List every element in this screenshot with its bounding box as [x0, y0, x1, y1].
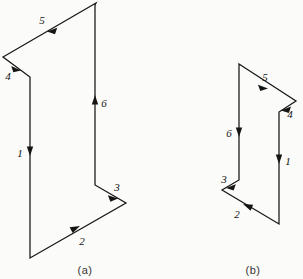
panel-a-segment-6: 6	[92, 95, 107, 109]
segment-label-5: 5	[262, 71, 268, 83]
panel-b-outline	[222, 64, 296, 224]
segment-label-2: 2	[234, 208, 240, 220]
polygon-figure-svg: 1 2 3 4 5	[0, 0, 303, 279]
segment-label-1: 1	[285, 155, 291, 167]
panel-b-caption: (b)	[245, 264, 260, 276]
segment-label-5: 5	[39, 14, 45, 26]
segment-label-2: 2	[79, 235, 85, 247]
panel-b-segment-2: 2	[234, 204, 253, 220]
panel-b-segment-4: 4	[281, 107, 293, 121]
segment-label-4: 4	[287, 108, 293, 120]
figure-container: 1 2 3 4 5	[0, 0, 303, 279]
panel-a-caption: (a)	[77, 264, 92, 276]
panel-b-segment-1: 1	[276, 155, 291, 168]
panel-b-segment-5: 5	[258, 71, 268, 91]
panel-a: 1 2 3 4 5	[3, 3, 126, 276]
arrow-head-icon	[27, 147, 33, 157]
arrow-head-icon	[276, 155, 282, 165]
panel-a-segment-5: 5	[39, 14, 57, 34]
segment-label-3: 3	[113, 181, 120, 193]
panel-a-segment-1: 1	[17, 147, 33, 160]
arrow-head-icon	[236, 128, 242, 138]
arrow-head-icon	[243, 204, 253, 211]
segment-label-3: 3	[220, 173, 227, 185]
segment-label-6: 6	[101, 97, 107, 109]
arrow-head-icon	[258, 85, 268, 91]
panel-b-segment-6: 6	[226, 127, 242, 139]
segment-label-6: 6	[226, 127, 232, 139]
panel-b-segment-3: 3	[220, 173, 236, 191]
panel-b: 1 2 3 4 5	[220, 64, 296, 276]
panel-a-segment-2: 2	[70, 226, 86, 247]
segment-label-1: 1	[17, 147, 23, 159]
arrow-head-icon	[108, 195, 118, 201]
arrow-head-icon	[92, 95, 98, 105]
panel-a-outline	[3, 3, 126, 258]
segment-label-4: 4	[5, 70, 11, 82]
